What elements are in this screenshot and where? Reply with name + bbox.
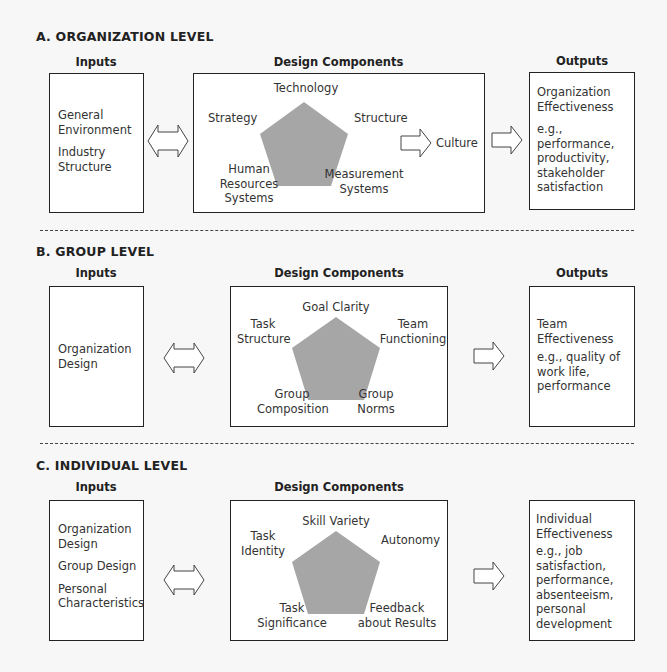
right-arrow-icon [491, 125, 523, 155]
component-top: Technology [266, 81, 346, 96]
component-left: Task Identity [241, 529, 285, 558]
component-line: Functioning [379, 332, 447, 347]
section-divider [40, 443, 634, 444]
component-line: Task [237, 317, 289, 332]
component-line: Group [257, 387, 327, 402]
component-line: Composition [257, 402, 327, 417]
output-example: e.g., quality of [537, 350, 620, 365]
component-line: Team [379, 317, 447, 332]
output-title-line: Individual [536, 512, 613, 527]
component-right: Structure [354, 111, 408, 126]
component-line: Human [214, 162, 284, 177]
inputs-header: Inputs [49, 55, 143, 69]
input-item: Design [58, 537, 144, 552]
culture-label: Culture [436, 136, 478, 151]
outputs-header: Outputs [529, 266, 635, 280]
input-item: Industry [58, 145, 131, 160]
inputs-box: Organization Design [49, 286, 144, 427]
output-example: personal [536, 602, 613, 617]
outputs-text: Team Effectiveness e.g., quality of work… [537, 317, 620, 394]
component-line: about Results [349, 616, 445, 631]
right-arrow-icon [400, 128, 432, 158]
component-bottom-right: Group Norms [351, 387, 401, 416]
component-line: Resources [214, 177, 284, 192]
inputs-box: General Environment Industry Structure [49, 73, 144, 213]
output-title-line: Effectiveness [536, 527, 613, 542]
component-line: Structure [237, 332, 289, 347]
component-line: Significance [257, 616, 327, 631]
component-top: Goal Clarity [291, 300, 381, 315]
input-item: General [58, 108, 131, 123]
component-left: Strategy [208, 111, 257, 126]
inputs-text: Organization Design [58, 342, 132, 371]
design-components-box: Skill Variety Task Identity Autonomy Tas… [230, 500, 448, 641]
outputs-box: Organization Effectiveness e.g., perform… [529, 72, 635, 210]
input-item: Structure [58, 160, 131, 175]
output-example: e.g., performance, [537, 122, 634, 151]
input-item: Design [58, 357, 132, 372]
right-arrow-icon [473, 341, 505, 371]
design-components-header: Design Components [230, 480, 448, 494]
component-bottom-right: Feedback about Results [349, 601, 445, 630]
output-example: performance, [536, 573, 613, 588]
outputs-box: Team Effectiveness e.g., quality of work… [529, 286, 635, 427]
inputs-text: General Environment Industry Structure [58, 108, 131, 174]
component-right: Autonomy [381, 533, 440, 548]
inputs-header: Inputs [49, 266, 143, 280]
output-title-line: Effectiveness [537, 100, 634, 115]
input-item: Organization [58, 522, 144, 537]
output-example: absenteeism, [536, 588, 613, 603]
component-line: Feedback [349, 601, 445, 616]
component-line: Systems [324, 182, 404, 197]
output-example: e.g., job [536, 544, 613, 559]
output-title-line: Effectiveness [537, 332, 620, 347]
component-bottom-left: Group Composition [257, 387, 327, 416]
output-example: productivity, [537, 151, 634, 166]
component-bottom-left: Task Significance [257, 601, 327, 630]
double-arrow-icon [147, 123, 189, 159]
component-right: Team Functioning [379, 317, 447, 346]
outputs-text: Individual Effectiveness e.g., job satis… [536, 512, 613, 631]
component-bottom-left: Human Resources Systems [214, 162, 284, 206]
output-example: stakeholder [537, 166, 634, 181]
double-arrow-icon [163, 563, 205, 597]
outputs-text: Organization Effectiveness e.g., perform… [537, 85, 634, 195]
output-title-line: Team [537, 317, 620, 332]
output-example: work life, [537, 365, 620, 380]
section-title-organization: A. ORGANIZATION LEVEL [36, 29, 214, 44]
component-bottom-right: Measurement Systems [324, 167, 404, 196]
input-item: Organization [58, 342, 132, 357]
outputs-header: Outputs [529, 54, 635, 68]
component-line: Measurement [324, 167, 404, 182]
design-components-header: Design Components [193, 55, 484, 69]
component-line: Norms [351, 402, 401, 417]
design-components-box: Technology Strategy Structure Human Reso… [193, 73, 485, 213]
component-left: Task Structure [237, 317, 289, 346]
component-line: Identity [241, 544, 285, 559]
output-title-line: Organization [537, 85, 634, 100]
inputs-header: Inputs [49, 480, 143, 494]
component-top: Skill Variety [291, 514, 381, 529]
input-item: Environment [58, 123, 131, 138]
input-item: Characteristics [58, 596, 144, 611]
design-components-header: Design Components [230, 266, 448, 280]
output-example: satisfaction, [536, 559, 613, 574]
output-example: satisfaction [537, 180, 634, 195]
component-line: Systems [214, 191, 284, 206]
section-title-individual: C. INDIVIDUAL LEVEL [36, 458, 187, 473]
component-line: Group [351, 387, 401, 402]
design-components-box: Goal Clarity Task Structure Team Functio… [230, 286, 448, 427]
section-divider [40, 230, 634, 231]
output-example: performance [537, 379, 620, 394]
input-item: Group Design [58, 559, 144, 574]
output-example: development [536, 617, 613, 632]
component-line: Task [257, 601, 327, 616]
right-arrow-icon [473, 561, 505, 591]
double-arrow-icon [163, 341, 205, 375]
input-item: Personal [58, 582, 144, 597]
inputs-text: Organization Design Group Design Persona… [58, 522, 144, 611]
component-line: Task [241, 529, 285, 544]
outputs-box: Individual Effectiveness e.g., job satis… [529, 500, 635, 641]
section-title-group: B. GROUP LEVEL [36, 244, 154, 259]
inputs-box: Organization Design Group Design Persona… [49, 500, 144, 641]
